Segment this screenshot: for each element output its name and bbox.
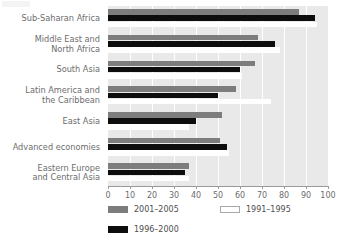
- bar: [108, 144, 227, 150]
- bar: [108, 138, 220, 144]
- x-tick-mark: [130, 186, 131, 189]
- category-axis-labels: Sub-Saharan AfricaMiddle East and North …: [0, 6, 104, 186]
- category-label: Latin America and the Caribbean: [0, 86, 100, 105]
- bar-group: [108, 135, 328, 161]
- bar: [108, 15, 315, 21]
- bar: [108, 163, 189, 169]
- grouped-bar-chart: Sub-Saharan AfricaMiddle East and North …: [0, 0, 343, 248]
- legend-label: 1996–2000: [134, 225, 179, 234]
- bar-group: [108, 32, 328, 58]
- x-tick-mark: [328, 186, 329, 189]
- x-tick-label: 50: [206, 191, 230, 200]
- bar: [108, 150, 229, 156]
- bar-group: [108, 6, 328, 32]
- bar: [108, 93, 218, 99]
- x-tick-label: 60: [228, 191, 252, 200]
- bar: [108, 9, 299, 15]
- legend-item-1991-1995[interactable]: 1991–1995: [220, 205, 291, 214]
- plot-area: [108, 6, 328, 186]
- category-label: Advanced economies: [0, 143, 100, 153]
- bar: [108, 86, 236, 92]
- legend-swatch-icon-gray: [108, 206, 128, 213]
- x-tick-label: 10: [118, 191, 142, 200]
- legend-label: 1991–1995: [246, 205, 291, 214]
- bar: [108, 41, 275, 47]
- bar: [108, 118, 196, 124]
- bar: [108, 176, 189, 182]
- bar: [108, 170, 185, 176]
- x-tick-label: 100: [316, 191, 340, 200]
- bar: [108, 99, 271, 105]
- x-tick-label: 30: [162, 191, 186, 200]
- x-tick-mark: [240, 186, 241, 189]
- bar: [108, 73, 242, 79]
- x-tick-label: 20: [140, 191, 164, 200]
- bar: [108, 22, 317, 28]
- x-axis: 0102030405060708090100: [108, 186, 328, 187]
- x-tick-mark: [284, 186, 285, 189]
- x-tick-mark: [218, 186, 219, 189]
- bar: [108, 35, 258, 41]
- x-tick-label: 90: [294, 191, 318, 200]
- x-tick-mark: [152, 186, 153, 189]
- bar-group: [108, 160, 328, 186]
- category-label: Middle East and North Africa: [0, 35, 100, 54]
- bar: [108, 47, 280, 53]
- category-label: Eastern Europe and Central Asia: [0, 164, 100, 183]
- x-tick-mark: [306, 186, 307, 189]
- x-tick-label: 70: [250, 191, 274, 200]
- legend-swatch-icon-white: [220, 206, 240, 213]
- x-tick-mark: [108, 186, 109, 189]
- legend-label: 2001–2005: [134, 205, 179, 214]
- bar: [108, 112, 222, 118]
- x-tick-mark: [262, 186, 263, 189]
- bar-group: [108, 109, 328, 135]
- bar: [108, 67, 240, 73]
- bar-group: [108, 83, 328, 109]
- chart-legend: 2001–2005 1991–1995 1996–2000: [108, 205, 338, 245]
- category-label: South Asia: [0, 65, 100, 75]
- legend-item-2001-2005[interactable]: 2001–2005: [108, 205, 179, 214]
- x-tick-label: 80: [272, 191, 296, 200]
- category-label: Sub-Saharan Africa: [0, 14, 100, 24]
- bar: [108, 124, 189, 130]
- legend-item-1996-2000[interactable]: 1996–2000: [108, 225, 179, 234]
- category-label: East Asia: [0, 117, 100, 127]
- gridline: [328, 6, 329, 186]
- legend-swatch-icon-black: [108, 226, 128, 233]
- bar: [108, 61, 255, 67]
- x-tick-mark: [174, 186, 175, 189]
- x-tick-label: 0: [96, 191, 120, 200]
- x-tick-label: 40: [184, 191, 208, 200]
- bar-group: [108, 57, 328, 83]
- x-tick-mark: [196, 186, 197, 189]
